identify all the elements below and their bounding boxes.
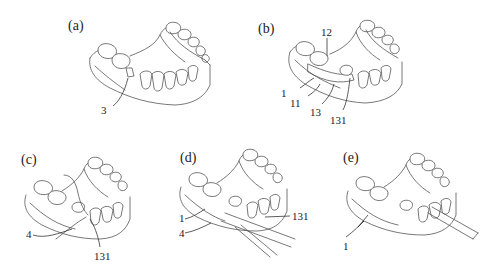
panel-b: (b) 12 1 11 13 131 (240, 0, 493, 135)
ref-1: 1 (281, 88, 287, 99)
dental-arch-drawing-e (328, 135, 493, 270)
ref-1: 1 (343, 241, 349, 252)
ref-4: 4 (26, 229, 32, 240)
dental-arch-drawing-a (0, 0, 250, 135)
ref-13: 13 (310, 107, 321, 118)
ref-3: 3 (101, 105, 107, 116)
dental-arch-drawing-d (165, 135, 330, 270)
ref-131: 131 (330, 115, 347, 126)
ref-4: 4 (179, 228, 185, 239)
dental-arch-drawing-c (0, 135, 165, 270)
ref-12: 12 (321, 27, 332, 38)
ref-11: 11 (290, 98, 301, 109)
ref-131: 131 (94, 251, 111, 262)
dental-arch-drawing-b (240, 0, 493, 135)
ref-1: 1 (179, 213, 185, 224)
panel-e: (e) 1 (328, 135, 493, 270)
panel-a: (a) 3 (0, 0, 250, 135)
panel-c: (c) 4 131 (0, 135, 165, 270)
ref-131: 131 (292, 211, 309, 222)
panel-d: (d) 1 4 131 (165, 135, 330, 270)
